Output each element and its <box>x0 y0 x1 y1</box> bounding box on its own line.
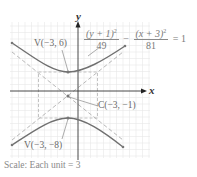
x-axis-label: x <box>149 85 155 96</box>
center-leader <box>69 97 98 106</box>
center-label: C(−3, −1) <box>98 101 136 111</box>
term1-exponent: 2 <box>114 28 117 34</box>
equation-term-x: (x + 3)2 81 <box>134 26 169 51</box>
upper-vertex-label: V(−3, 6) <box>34 39 67 49</box>
term2-exponent: 2 <box>163 28 166 34</box>
minus-operator: − <box>121 33 131 44</box>
equation-term-y: (y + 1)2 49 <box>84 26 119 51</box>
scale-caption: Scale: Each unit = 3 <box>4 160 81 170</box>
x-axis-arrow <box>141 89 147 94</box>
hyperbola-figure: y x (y + 1)2 49 − (x + 3)2 81 = 1 V(−3, … <box>0 0 197 177</box>
hyperbola-equation: (y + 1)2 49 − (x + 3)2 81 = 1 <box>84 26 188 51</box>
term2-numerator: (x + 3) <box>136 28 164 39</box>
upper-vertex-leader <box>62 50 68 71</box>
term1-numerator: (y + 1) <box>86 28 114 39</box>
y-axis-label: y <box>76 11 81 22</box>
lower-vertex-label: V(−3, −8) <box>24 141 62 151</box>
equation-rhs: = 1 <box>171 33 188 44</box>
term2-denominator: 81 <box>134 40 169 51</box>
term1-denominator: 49 <box>84 40 119 51</box>
lower-vertex-leader <box>62 119 68 139</box>
